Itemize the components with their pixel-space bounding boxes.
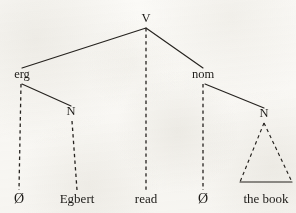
edge-n-left-to-egbert xyxy=(72,121,77,190)
triangle-group xyxy=(240,123,292,182)
edge-erg-to-null xyxy=(19,84,21,190)
edge-root-to-nom xyxy=(146,28,203,68)
terminal-the-book[interactable]: the book xyxy=(243,191,289,206)
triangle-right-side xyxy=(264,123,292,182)
terminal-read[interactable]: read xyxy=(135,191,158,206)
syntax-tree-diagram: V erg nom N N Ø Egbert read Ø the book xyxy=(0,0,296,213)
terminal-group: Ø Egbert read Ø the book xyxy=(14,191,289,206)
edge-root-to-erg xyxy=(22,28,146,68)
node-label-n-right[interactable]: N xyxy=(259,106,268,120)
category-node-group: V erg nom N N xyxy=(14,11,268,120)
node-label-root-v[interactable]: V xyxy=(141,11,150,25)
node-label-n-left[interactable]: N xyxy=(66,104,75,118)
triangle-left-side xyxy=(240,123,264,182)
edge-nom-to-n-right xyxy=(205,84,264,108)
terminal-null-nominative[interactable]: Ø xyxy=(198,191,208,206)
node-label-nom[interactable]: nom xyxy=(192,67,215,81)
node-label-erg[interactable]: erg xyxy=(14,67,30,81)
terminal-egbert[interactable]: Egbert xyxy=(60,191,95,206)
edge-group xyxy=(19,28,264,190)
edge-erg-to-n-left xyxy=(22,84,71,106)
tree-canvas: V erg nom N N Ø Egbert read Ø the book xyxy=(0,0,296,213)
terminal-null-ergative[interactable]: Ø xyxy=(14,191,24,206)
